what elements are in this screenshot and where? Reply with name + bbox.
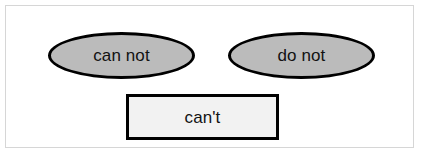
node-do-not-label: do not bbox=[278, 47, 326, 64]
node-can-not-label: can not bbox=[93, 47, 149, 64]
node-can-not[interactable]: can not bbox=[48, 32, 195, 79]
node-cant[interactable]: can't bbox=[126, 94, 279, 140]
node-do-not[interactable]: do not bbox=[228, 32, 375, 79]
node-cant-label: can't bbox=[185, 109, 221, 126]
diagram-canvas: can not do not can't bbox=[0, 0, 424, 158]
diagram-frame: can not do not can't bbox=[5, 5, 414, 148]
